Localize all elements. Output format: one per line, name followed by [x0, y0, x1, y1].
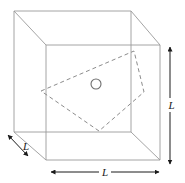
dimension-width-label: L	[101, 166, 108, 178]
inscribed-dashed-square	[41, 51, 144, 131]
center-circle	[91, 79, 101, 89]
cube-connecting-edges	[14, 11, 160, 160]
figure-container: L L L	[0, 0, 185, 183]
cube-front-face	[46, 45, 160, 160]
inscribed-dashed-square-outline	[41, 51, 144, 131]
dimension-height-label: L	[167, 99, 174, 111]
cube-edge-top-right	[131, 11, 160, 45]
cube-diagram: L L L	[0, 0, 185, 183]
dimension-depth-label: L	[22, 140, 29, 152]
cube-edge-top-left	[14, 11, 46, 45]
cube-edge-bottom-right	[131, 132, 160, 160]
dimension-height: L	[166, 47, 177, 164]
dimension-width: L	[51, 165, 159, 178]
dimension-depth: L	[8, 135, 29, 156]
cube-front-face-outline	[46, 45, 160, 160]
